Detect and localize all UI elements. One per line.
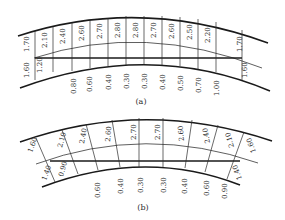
value-label: 0.40 [181, 178, 189, 194]
value-label: 2.80 [114, 22, 122, 38]
value-label: 0.50 [177, 75, 185, 91]
value-label: 2.60 [104, 126, 113, 142]
value-label: 2.60 [78, 25, 86, 41]
value-label: 2.70 [150, 22, 158, 38]
value-label: 2.60 [177, 125, 186, 141]
value-label: 1.70 [23, 36, 31, 52]
value-label: 1.60 [245, 137, 258, 154]
bottom-labels: 0.60 0.40 0.30 0.30 0.40 0.60 0.90 [94, 177, 229, 199]
value-label: 0.60 [203, 180, 211, 196]
diagram-canvas: 1.70 2.10 2.40 2.60 2.70 2.80 2.80 2.70 … [0, 0, 285, 220]
value-label: 2.40 [78, 128, 89, 145]
value-label: 2.70 [96, 23, 104, 39]
value-label: 0.30 [123, 73, 131, 89]
value-label: 0.70 [195, 77, 203, 93]
value-label: 2.20 [204, 27, 212, 43]
outer-arc [18, 18, 268, 43]
value-label: 1.40 [231, 164, 244, 181]
value-label: 1.60 [241, 62, 249, 78]
value-label: 0.90 [221, 183, 229, 199]
grid-lines [36, 118, 244, 182]
value-label: 2.60 [168, 23, 176, 39]
value-label: 2.10 [224, 131, 236, 148]
value-label: 2.70 [130, 124, 138, 140]
value-label: 0.90 [57, 160, 69, 177]
value-label: 0.40 [105, 74, 113, 90]
value-label: 1.70 [236, 36, 244, 52]
value-label: 1.00 [213, 80, 221, 96]
value-label: 0.40 [117, 178, 125, 194]
value-label: 0.40 [159, 74, 167, 90]
value-label: 0.60 [94, 182, 102, 198]
value-label: 2.50 [186, 24, 194, 40]
value-label: 0.30 [137, 177, 145, 193]
value-label: 1.60 [23, 62, 31, 78]
top-labels: 1.60 2.10 2.40 2.60 2.70 2.70 2.60 2.40 … [26, 124, 258, 154]
value-label: 0.30 [160, 177, 168, 193]
value-label: 1.20 [36, 57, 44, 73]
value-label: 2.80 [132, 22, 140, 38]
value-label: 0.80 [70, 78, 78, 94]
value-label: 2.10 [56, 131, 68, 148]
value-label: 0.30 [141, 73, 149, 89]
inner-labels: 1.60 1.20 1.60 [23, 57, 249, 78]
value-label: 2.40 [59, 28, 67, 44]
caption-b: (b) [137, 203, 148, 212]
caption-a: (a) [135, 97, 146, 106]
value-label: 0.60 [86, 76, 94, 92]
value-label: 2.40 [201, 127, 212, 144]
diagram-b: 1.60 2.10 2.40 2.60 2.70 2.70 2.60 2.40 … [20, 118, 272, 212]
diagram-a: 1.70 2.10 2.40 2.60 2.70 2.80 2.80 2.70 … [18, 16, 270, 106]
bottom-labels: 0.80 0.60 0.40 0.30 0.30 0.40 0.50 0.70 … [70, 73, 221, 96]
value-label: 2.70 [154, 124, 162, 140]
value-label: 2.10 [41, 32, 49, 48]
